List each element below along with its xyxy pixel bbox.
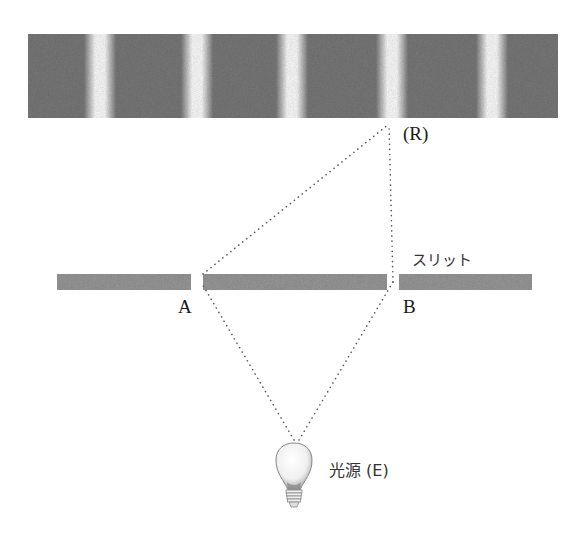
label-screen-point-r: (R): [403, 123, 428, 145]
label-slit: スリット: [412, 248, 472, 269]
slit-plate-segment: [203, 274, 387, 290]
interference-pattern: [28, 34, 558, 118]
label-slit-b: B: [403, 296, 416, 318]
path-b-to-r: [389, 124, 393, 282]
path-e-to-b: [299, 282, 393, 440]
slit-plate-segment: [399, 274, 532, 290]
label-slit-a: A: [178, 296, 192, 318]
fringe-screen: [28, 34, 558, 118]
label-light-source: 光源 (E): [329, 457, 389, 481]
double-slit-diagram: (R) スリット A B 光源 (E): [0, 0, 586, 545]
light-bulb-icon: [276, 443, 312, 507]
slit-plate-segment: [57, 274, 191, 290]
path-a-to-r: [203, 124, 389, 274]
slit-plate: [57, 274, 532, 290]
path-e-to-a: [201, 282, 294, 440]
